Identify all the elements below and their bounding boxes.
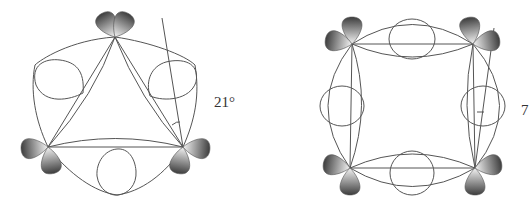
triangle-angle-label: 21° [214, 94, 235, 111]
triangle-lobes [20, 9, 211, 176]
square-angle-label: 7 [521, 102, 529, 119]
orbital-diagram [0, 0, 529, 210]
